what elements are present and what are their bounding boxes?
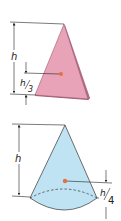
height-label: h (11, 51, 17, 62)
top-extension-line (10, 22, 64, 24)
triangle-centroid-dot (59, 72, 63, 76)
cone-centroid-label-den: 4 (108, 195, 114, 206)
cone-centroid-dot (63, 179, 67, 183)
triangle-figure: h h 3 (9, 22, 90, 105)
centroid-label-den: 3 (28, 85, 33, 94)
bottom-extension-line (10, 94, 36, 95)
cone-height-label: h (15, 153, 21, 164)
cone-face (30, 125, 97, 210)
triangle-face (35, 24, 88, 99)
cone-centroid-label-num: h (100, 188, 106, 198)
centroid-diagram: h h 3 h h 4 (0, 0, 121, 221)
cone-top-extension (12, 124, 65, 125)
cone-bottom-extension (12, 196, 30, 197)
cone-figure: h h 4 (12, 124, 117, 219)
centroid-label-num: h (20, 78, 26, 88)
